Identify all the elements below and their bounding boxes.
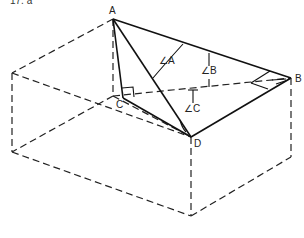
- vertex-label-B: B: [295, 74, 302, 84]
- vertex-label-D: D: [194, 139, 201, 149]
- diagram-canvas: [0, 0, 304, 238]
- vertex-label-C: C: [116, 100, 123, 110]
- box-edge: [191, 157, 291, 216]
- angle-B-marker: [251, 83, 268, 89]
- angle-label-A: ∠A: [159, 56, 175, 66]
- box-edge: [12, 96, 113, 152]
- angle-label-B: ∠B: [201, 66, 217, 76]
- box-edge: [12, 152, 191, 216]
- edge-CD: [123, 98, 191, 137]
- vertex-label-A: A: [109, 6, 116, 16]
- right-angle-marker: [122, 87, 134, 97]
- angle-label-C: ∠C: [184, 104, 200, 114]
- dashed-box: [12, 19, 291, 216]
- solid-tetrahedron: [113, 19, 291, 137]
- angle-B-marker: [272, 79, 286, 80]
- box-edge: [12, 73, 191, 137]
- edge-AD: [113, 19, 191, 137]
- box-edge: [12, 19, 113, 73]
